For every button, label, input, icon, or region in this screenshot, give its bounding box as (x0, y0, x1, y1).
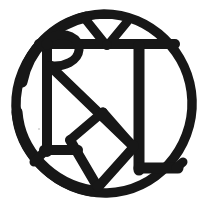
letter-v-vertex (93, 181, 104, 192)
junction-r-stem-crossbar (42, 39, 53, 50)
junction-notch-apex (102, 40, 112, 50)
letter-t-foot-tip (176, 162, 183, 168)
letter-v-group (70, 112, 133, 192)
junction-k-base-stem (42, 145, 53, 156)
artboard: Black hand-drawn monogram of interlockin… (0, 0, 210, 209)
paper-speck (38, 128, 40, 130)
letter-v-right-arm (99, 148, 133, 186)
junction-t-crossbar-stem (133, 40, 145, 52)
monogram-artwork: Black hand-drawn monogram of interlockin… (0, 0, 210, 209)
letter-v-left-arm (70, 140, 97, 186)
letter-v-facet-left (70, 112, 103, 140)
junction-k-diagonal-t-stem (127, 140, 139, 152)
